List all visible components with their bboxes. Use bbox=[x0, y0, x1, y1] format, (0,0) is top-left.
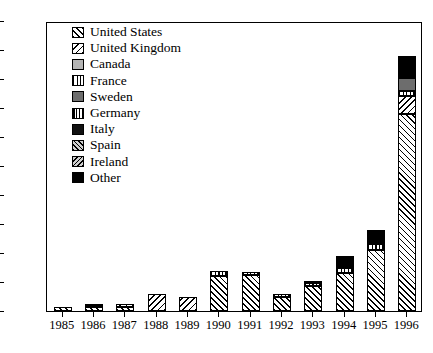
legend-item-label: United Kingdom bbox=[90, 41, 181, 55]
bar-segment[interactable] bbox=[85, 307, 103, 311]
legend-item-label: Other bbox=[90, 171, 121, 185]
x-axis-tick-label: 1988 bbox=[143, 318, 168, 333]
legend-swatch-icon bbox=[72, 27, 84, 38]
x-axis-tick-label: 1986 bbox=[81, 318, 106, 333]
bar-column[interactable] bbox=[398, 56, 416, 311]
bar-column[interactable] bbox=[116, 304, 134, 311]
bar-segment[interactable] bbox=[398, 114, 416, 311]
bar-column[interactable] bbox=[148, 294, 166, 311]
x-axis-tick-mark bbox=[187, 312, 188, 317]
bar-segment[interactable] bbox=[242, 272, 260, 275]
bar-segment[interactable] bbox=[398, 56, 416, 78]
legend-swatch-icon bbox=[72, 124, 84, 135]
legend-swatch-icon bbox=[72, 91, 84, 102]
y-axis-tick-mark bbox=[0, 311, 4, 312]
bar-segment[interactable] bbox=[304, 286, 322, 311]
bar-segment[interactable] bbox=[304, 283, 322, 286]
x-axis-tick-label: 1991 bbox=[237, 318, 262, 333]
legend-item[interactable]: Sweden bbox=[72, 89, 232, 105]
legend-item[interactable]: Italy bbox=[72, 121, 232, 137]
bar-segment[interactable] bbox=[398, 96, 416, 113]
legend-item[interactable]: United Kingdom bbox=[72, 40, 232, 56]
x-axis-tick-mark bbox=[344, 312, 345, 317]
bar-segment[interactable] bbox=[116, 307, 134, 311]
bar-segment[interactable] bbox=[398, 91, 416, 97]
legend-swatch-icon bbox=[72, 156, 84, 167]
bar-segment[interactable] bbox=[273, 294, 291, 296]
legend-item[interactable]: United States bbox=[72, 24, 232, 40]
bar-segment[interactable] bbox=[116, 304, 134, 306]
legend-item-label: Ireland bbox=[90, 155, 128, 169]
x-axis-tick-label: 1993 bbox=[300, 318, 325, 333]
bar-segment[interactable] bbox=[210, 271, 228, 276]
legend-item[interactable]: France bbox=[72, 73, 232, 89]
x-axis-tick-label: 1989 bbox=[175, 318, 200, 333]
bar-column[interactable] bbox=[85, 304, 103, 311]
y-axis-tick-mark bbox=[0, 195, 4, 196]
y-axis-tick-mark bbox=[0, 21, 4, 22]
x-axis-tick-mark bbox=[62, 312, 63, 317]
x-axis-tick-mark bbox=[218, 312, 219, 317]
x-axis-tick-mark bbox=[250, 312, 251, 317]
legend-item-label: Italy bbox=[90, 122, 115, 136]
legend-item-label: Spain bbox=[90, 138, 121, 152]
x-axis-tick-label: 1994 bbox=[331, 318, 356, 333]
bar-segment[interactable] bbox=[398, 78, 416, 91]
bar-segment[interactable] bbox=[85, 304, 103, 306]
legend-item-label: United States bbox=[90, 25, 162, 39]
x-axis-tick-mark bbox=[375, 312, 376, 317]
x-axis-tick-label: 1996 bbox=[394, 318, 419, 333]
x-axis-tick-label: 1995 bbox=[363, 318, 388, 333]
bar-column[interactable] bbox=[242, 272, 260, 311]
y-axis-tick-mark bbox=[0, 50, 4, 51]
bar-column[interactable] bbox=[273, 294, 291, 311]
bar-segment[interactable] bbox=[148, 294, 166, 311]
x-axis-tick-label: 1992 bbox=[269, 318, 294, 333]
bar-segment[interactable] bbox=[273, 297, 291, 312]
legend-swatch-icon bbox=[72, 108, 84, 119]
bar-segment[interactable] bbox=[336, 256, 354, 268]
y-axis-tick-mark bbox=[0, 137, 4, 138]
legend-item[interactable]: Canada bbox=[72, 56, 232, 72]
x-axis-tick-mark bbox=[281, 312, 282, 317]
x-axis-tick-mark bbox=[93, 312, 94, 317]
bar-column[interactable] bbox=[367, 230, 385, 311]
legend-item[interactable]: Germany bbox=[72, 105, 232, 121]
bar-segment[interactable] bbox=[336, 273, 354, 311]
bar-segment[interactable] bbox=[210, 276, 228, 311]
legend-item-label: Canada bbox=[90, 57, 130, 71]
x-axis-tick-mark bbox=[312, 312, 313, 317]
y-axis: 0102030405060708090100 bbox=[0, 0, 46, 312]
legend-item-label: Germany bbox=[90, 106, 140, 120]
legend: United StatesUnited KingdomCanadaFranceS… bbox=[72, 24, 232, 186]
bar-segment[interactable] bbox=[367, 250, 385, 311]
x-axis-tick-label: 1990 bbox=[206, 318, 231, 333]
legend-swatch-icon bbox=[72, 43, 84, 54]
legend-item[interactable]: Ireland bbox=[72, 154, 232, 170]
bar-segment[interactable] bbox=[304, 281, 322, 283]
bar-segment[interactable] bbox=[54, 307, 72, 311]
y-axis-tick-mark bbox=[0, 224, 4, 225]
bar-column[interactable] bbox=[304, 282, 322, 311]
bar-column[interactable] bbox=[336, 256, 354, 311]
bar-segment[interactable] bbox=[242, 275, 260, 311]
bar-segment[interactable] bbox=[367, 244, 385, 250]
x-axis-tick-label: 1985 bbox=[49, 318, 74, 333]
legend-item-label: Sweden bbox=[90, 90, 133, 104]
legend-swatch-icon bbox=[72, 172, 84, 183]
legend-item[interactable]: Other bbox=[72, 170, 232, 186]
x-axis-tick-mark bbox=[156, 312, 157, 317]
bar-column[interactable] bbox=[54, 307, 72, 311]
x-axis-tick-mark bbox=[406, 312, 407, 317]
bar-segment[interactable] bbox=[179, 297, 197, 312]
stacked-bar-chart: 0102030405060708090100 19851986198719881… bbox=[0, 0, 433, 353]
bar-segment[interactable] bbox=[367, 230, 385, 245]
bar-column[interactable] bbox=[210, 271, 228, 311]
bar-segment[interactable] bbox=[336, 268, 354, 274]
legend-item[interactable]: Spain bbox=[72, 137, 232, 153]
legend-item-label: France bbox=[90, 74, 127, 88]
y-axis-tick-mark bbox=[0, 108, 4, 109]
bar-column[interactable] bbox=[179, 297, 197, 312]
legend-swatch-icon bbox=[72, 75, 84, 86]
y-axis-tick-mark bbox=[0, 79, 4, 80]
